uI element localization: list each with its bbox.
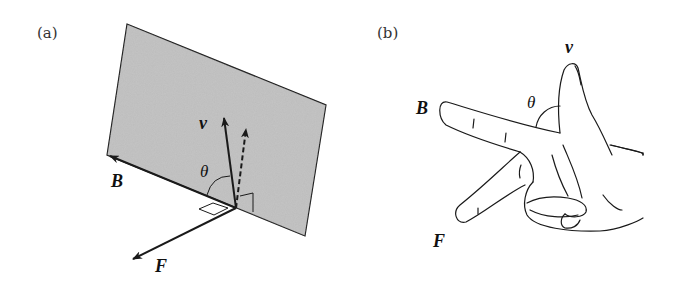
panel-b-label: (b) <box>377 26 398 41</box>
b-label-b: B <box>416 99 428 117</box>
v-label-a: v <box>199 114 207 132</box>
theta-label-b: θ <box>527 94 535 111</box>
f-label-b: F <box>433 232 445 250</box>
theta-arc-b <box>536 106 560 127</box>
upright-finger <box>559 64 612 155</box>
index-finger <box>440 102 560 152</box>
lower-finger <box>456 152 525 222</box>
panel-a-label: (a) <box>37 26 58 41</box>
b-label-a: B <box>111 172 123 190</box>
panel-b-hand-drawing <box>0 0 680 282</box>
figure: (a) v θ B F (b) v θ B F <box>0 0 680 282</box>
f-label-a: F <box>155 257 167 275</box>
v-label-b: v <box>565 38 573 56</box>
theta-label-a: θ <box>200 163 208 180</box>
